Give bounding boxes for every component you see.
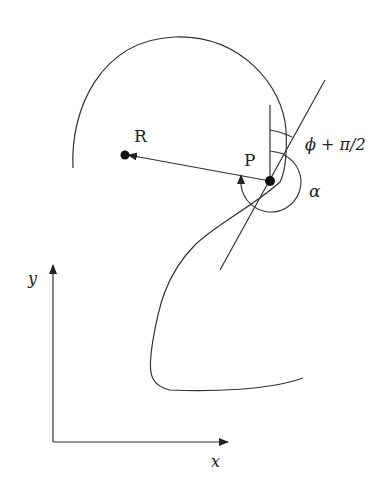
diagram-canvas: y x R P ϕ + π/2 α (0, 0, 391, 491)
label-r: R (134, 126, 148, 146)
x-axis-label: x (211, 452, 220, 471)
label-alpha: α (309, 181, 321, 201)
label-phi-plus-half-pi: ϕ + π/2 (305, 135, 366, 154)
label-p: P (244, 150, 255, 170)
angle-arc-phi-inner (270, 151, 284, 154)
angle-arc-phi-outer (270, 130, 292, 137)
point-p (265, 176, 275, 186)
y-axis-label: y (27, 269, 38, 288)
trajectory-curve (73, 37, 303, 391)
point-r (121, 151, 130, 160)
